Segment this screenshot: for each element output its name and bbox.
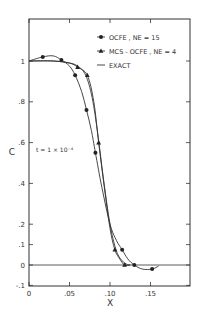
legend-item: EXACT: [97, 62, 130, 70]
circle-marker-icon: [99, 35, 103, 39]
time-annotation: t = 1 × 10⁻⁴: [36, 146, 74, 153]
legend-label: MCS - OCFE , NE = 4: [109, 48, 176, 56]
y-tick-label: .2: [18, 221, 25, 229]
circle-marker-icon: [150, 267, 154, 271]
series-curve: [29, 61, 130, 266]
circle-marker-icon: [132, 263, 136, 267]
y-tick-label: 0: [21, 262, 25, 270]
series-curve: [29, 61, 130, 265]
data-curves: [29, 56, 159, 270]
legend-label: OCFE , NE = 15: [109, 34, 160, 42]
circle-marker-icon: [120, 248, 124, 252]
triangle-marker-icon: [96, 140, 101, 144]
x-tick-label: 0: [27, 290, 31, 298]
y-tick-label: 1: [21, 58, 25, 66]
y-tick-label: .8: [18, 98, 25, 106]
x-axis-label: X: [107, 298, 113, 308]
y-axis-label: C: [9, 147, 15, 157]
x-tick-label: .10: [104, 290, 115, 298]
triangle-marker-icon: [112, 247, 117, 251]
circle-marker-icon: [59, 58, 63, 62]
circle-marker-icon: [41, 55, 45, 59]
legend-label: EXACT: [109, 62, 130, 70]
y-tick-label: .4: [18, 180, 25, 188]
y-tick-label: -.1: [16, 282, 25, 290]
x-tick-label: .15: [145, 290, 156, 298]
y-tick-label: .6: [18, 139, 25, 147]
circle-marker-icon: [85, 108, 89, 112]
circle-marker-icon: [73, 73, 77, 77]
legend-item: MCS - OCFE , NE = 4: [97, 48, 176, 56]
x-tick-label: .05: [64, 290, 75, 298]
legend-item: OCFE , NE = 15: [97, 34, 160, 42]
circle-marker-icon: [93, 151, 97, 155]
y-tick-label: .1: [18, 241, 25, 249]
chart: 0.05.10.15-.10.1.2.4.6.81 OCFE , NE = 15…: [0, 0, 200, 323]
series-curve: [29, 56, 159, 270]
legend: OCFE , NE = 15MCS - OCFE , NE = 4EXACT: [97, 34, 176, 70]
